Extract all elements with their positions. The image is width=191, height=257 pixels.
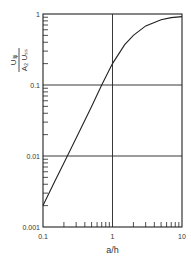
chart: 0.11100.0010.010.11a/hUᵢᵩA₂ Uₛₛ (0, 0, 191, 257)
y-label-denominator: A₂ Uₛₛ (20, 49, 29, 71)
y-axis-label: UᵢᵩA₂ Uₛₛ (9, 48, 29, 72)
y-tick-label: 0.01 (26, 153, 40, 160)
y-tick-label: 0.001 (22, 224, 40, 231)
y-tick-label: 0.1 (30, 82, 40, 89)
x-tick-label: 10 (178, 233, 186, 240)
x-tick-label: 1 (111, 233, 115, 240)
x-axis-label: a/h (106, 245, 119, 255)
y-tick-label: 1 (36, 11, 40, 18)
y-label-numerator: Uᵢᵩ (9, 54, 18, 65)
x-tick-label: 0.1 (38, 233, 48, 240)
